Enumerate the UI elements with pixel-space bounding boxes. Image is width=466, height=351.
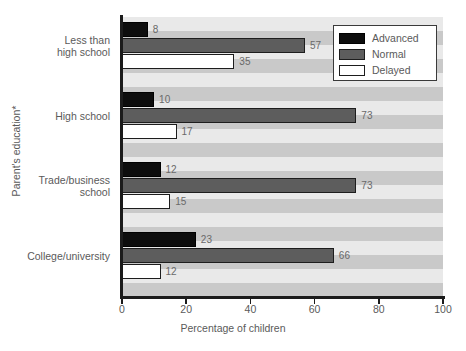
legend-label-normal: Normal <box>372 48 406 60</box>
y-axis-line <box>120 15 123 299</box>
bar-normal <box>122 108 356 123</box>
bar-delayed <box>122 194 170 209</box>
x-tick-label: 60 <box>309 303 321 315</box>
bar-delayed <box>122 124 177 139</box>
bar-value-label: 66 <box>339 248 350 263</box>
bar-value-label: 73 <box>361 108 372 123</box>
bar-normal <box>122 248 334 263</box>
bar-advanced <box>122 22 148 37</box>
x-tick-label: 80 <box>373 303 385 315</box>
bar-chart: 85735107317127315236612 020406080100 Les… <box>0 0 466 351</box>
legend-swatch-normal-icon <box>339 49 365 60</box>
bar-delayed <box>122 264 161 279</box>
bar-normal <box>122 178 356 193</box>
y-tick-label: Less thanhigh school <box>0 34 110 58</box>
bar-value-label: 10 <box>159 92 170 107</box>
bar-value-label: 12 <box>166 264 177 279</box>
x-tick-label: 40 <box>245 303 257 315</box>
bar-value-label: 17 <box>182 124 193 139</box>
legend-item-delayed: Delayed <box>339 62 431 78</box>
bar-value-label: 8 <box>153 22 159 37</box>
bar-value-label: 12 <box>166 162 177 177</box>
y-tick-label-line: Less than <box>0 34 110 46</box>
bar-value-label: 73 <box>361 178 372 193</box>
legend-item-advanced: Advanced <box>339 30 431 46</box>
y-tick-label-line: high school <box>0 46 110 58</box>
y-tick-label: College/university <box>0 250 110 262</box>
x-tick-label: 20 <box>180 303 192 315</box>
legend-label-delayed: Delayed <box>372 64 411 76</box>
x-tick-label: 100 <box>434 303 452 315</box>
y-tick-label-line: College/university <box>0 250 110 262</box>
bar-value-label: 57 <box>310 38 321 53</box>
bar-advanced <box>122 92 154 107</box>
bar-delayed <box>122 54 234 69</box>
bar-normal <box>122 38 305 53</box>
x-tick-label: 0 <box>119 303 125 315</box>
legend: Advanced Normal Delayed <box>333 25 437 81</box>
bar-advanced <box>122 232 196 247</box>
x-axis-title: Percentage of children <box>0 322 466 334</box>
bar-value-label: 23 <box>201 232 212 247</box>
bar-value-label: 35 <box>239 54 250 69</box>
y-axis-title: Parent's education* <box>10 91 22 211</box>
legend-item-normal: Normal <box>339 46 431 62</box>
legend-swatch-advanced-icon <box>339 33 365 44</box>
legend-label-advanced: Advanced <box>372 32 419 44</box>
bar-advanced <box>122 162 161 177</box>
bar-value-label: 15 <box>175 194 186 209</box>
legend-swatch-delayed-icon <box>339 65 365 76</box>
x-axis-line <box>120 296 445 299</box>
